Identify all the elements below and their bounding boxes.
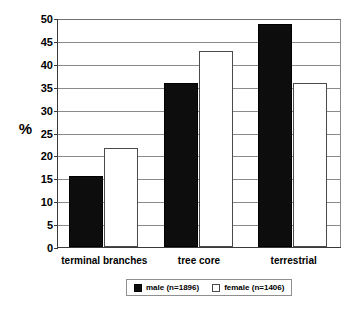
y-axis-tick-label: 30 [35, 106, 53, 117]
y-axis-tick [54, 88, 58, 89]
open-square-icon [212, 284, 220, 292]
y-axis-tick-label: 35 [35, 83, 53, 94]
gridline [58, 42, 341, 43]
bar-male [258, 24, 292, 247]
y-axis-tick-label: 20 [35, 151, 53, 162]
legend-label: male (n=1896) [146, 283, 199, 292]
legend-entry: female (n=1406) [212, 283, 284, 292]
x-axis-category-label: terminal branches [57, 255, 152, 266]
y-axis-tick [54, 65, 58, 66]
y-axis-tick-label: 40 [35, 60, 53, 71]
plot-area [57, 19, 341, 248]
y-axis-tick-label: 25 [35, 129, 53, 140]
bar-chart: % 50454035302520151050 male (n=1896)fema… [0, 0, 355, 312]
y-axis-tick-label: 15 [35, 174, 53, 185]
y-axis-tick-labels: 50454035302520151050 [32, 0, 53, 312]
x-axis-category-label: terrestrial [246, 255, 341, 266]
bar-male [164, 83, 198, 247]
y-axis-tick-label: 5 [35, 220, 53, 231]
y-axis-title: % [8, 121, 32, 136]
plot-inner [58, 19, 341, 247]
bar-female [293, 83, 327, 247]
legend-entry: male (n=1896) [134, 283, 199, 292]
chart-legend: male (n=1896)female (n=1406) [126, 279, 292, 296]
y-axis-tick [54, 248, 58, 249]
y-axis-tick [54, 202, 58, 203]
y-axis-tick-label: 0 [35, 243, 53, 254]
gridline [58, 19, 341, 20]
y-axis-tick [54, 42, 58, 43]
y-axis-tick [54, 179, 58, 180]
bar-female [199, 51, 233, 247]
y-axis-tick-label: 45 [35, 37, 53, 48]
filled-square-icon [134, 284, 142, 292]
y-axis-tick [54, 111, 58, 112]
y-axis-tick [54, 156, 58, 157]
x-axis-category-label: tree core [152, 255, 247, 266]
y-axis-tick [54, 19, 58, 20]
legend-label: female (n=1406) [224, 283, 284, 292]
bar-male [69, 176, 103, 247]
y-axis-tick [54, 134, 58, 135]
y-axis-tick-label: 10 [35, 197, 53, 208]
bar-female [104, 148, 138, 247]
y-axis-tick [54, 225, 58, 226]
y-axis-tick-label: 50 [35, 14, 53, 25]
